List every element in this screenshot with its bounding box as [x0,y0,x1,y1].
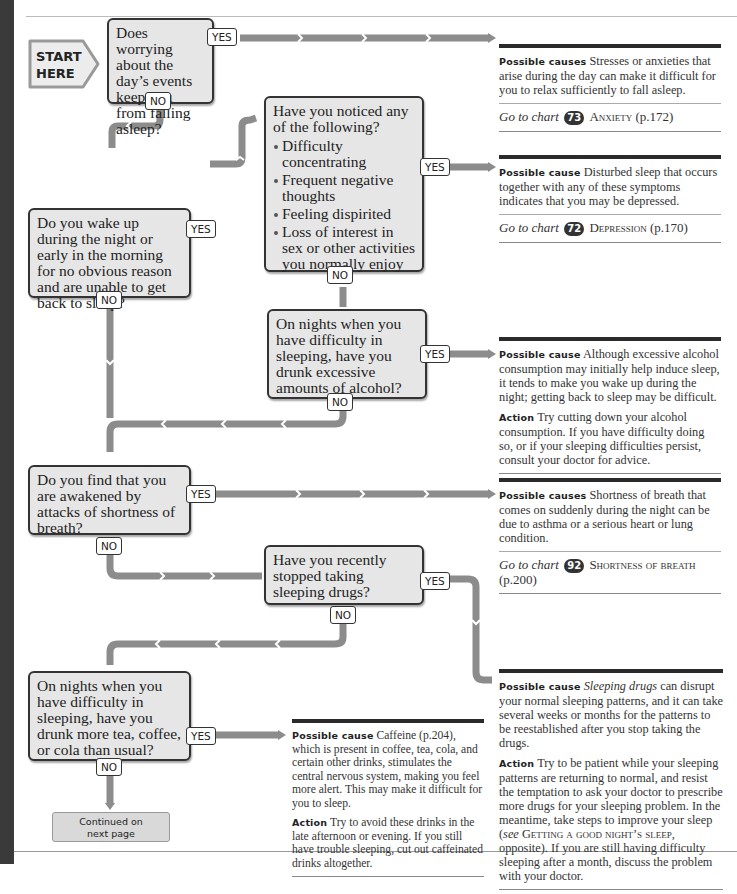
start-here-label: START HERE [36,48,82,82]
yes-tag: YES [207,28,237,46]
no-tag: NO [96,537,122,555]
yes-tag: YES [420,572,450,590]
yes-tag: YES [186,727,216,745]
chart-number-badge: 92 [564,559,584,573]
symptom-list: Difficulty concentrating Frequent negati… [273,138,415,272]
yes-tag: YES [186,485,216,503]
result-rule [499,337,721,341]
no-tag: NO [96,291,122,309]
result-depression: Possible cause Disturbed sleep that occu… [499,155,721,243]
symptom-item: Difficulty concentrating [273,138,415,170]
result-rule [499,669,723,673]
chart-number-badge: 73 [564,111,584,125]
result-sleeping-drugs: Possible cause Sleeping drugs can disrup… [499,669,723,894]
result-rule [499,44,721,48]
question-shortness-of-breath: Do you find that you are awakened by att… [28,465,191,535]
result-rule [499,478,721,482]
no-tag: NO [327,266,353,284]
yes-tag: YES [420,158,450,176]
yes-tag: YES [420,345,450,363]
result-rule [499,155,721,159]
symptom-item: Feeling dispirited [273,206,415,222]
goto-chart-link[interactable]: Go to chart 72 Depression (p.170) [499,214,721,243]
chart-number-badge: 72 [564,222,584,236]
no-tag: NO [327,393,353,411]
goto-chart-link[interactable]: Go to chart 92 Shortness of breath (p.20… [499,551,721,594]
cross-reference-link[interactable]: Getting a good night’s sleep [522,827,672,841]
no-tag: NO [145,92,171,110]
result-anxiety: Possible causes Stresses or anxieties th… [499,44,721,132]
result-shortness-of-breath: Possible causes Shortness of breath that… [499,478,721,594]
symptom-item: Loss of interest in sex or other activit… [273,224,415,272]
result-alcohol: Possible cause Although excessive alcoho… [499,337,721,480]
result-rule [292,719,484,723]
yes-tag: YES [186,220,216,238]
no-tag: NO [96,758,122,776]
no-tag: NO [330,606,356,624]
symptom-item: Frequent negative thoughts [273,172,415,204]
question-sleeping-drugs: Have you recently stopped taking sleepin… [264,545,424,605]
question-alcohol: On nights when you have difficulty in sl… [267,309,427,399]
result-caffeine: Possible cause Caffeine (p.204), which i… [292,719,484,883]
question-depression-symptoms: Have you noticed any of the following? D… [264,96,424,272]
question-caffeine: On nights when you have difficulty in sl… [28,671,191,761]
goto-chart-link[interactable]: Go to chart 73 Anxiety (p.172) [499,103,721,132]
continued-next-page[interactable]: Continued on next page [52,812,170,842]
question-early-waking: Do you wake up during the night or early… [28,208,191,298]
